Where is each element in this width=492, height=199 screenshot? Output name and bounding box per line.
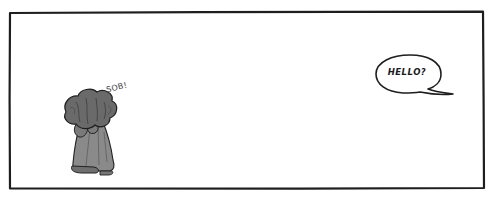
speech-bubble-text: HELLO? (384, 67, 430, 77)
crying-character (65, 89, 117, 175)
comic-panel: SOB! HELLO? (0, 0, 492, 199)
panel-artwork (0, 0, 492, 199)
